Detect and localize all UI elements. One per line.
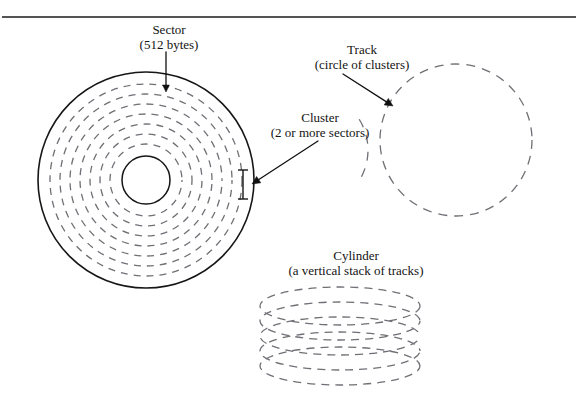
track-label-line2: (circle of clusters) — [292, 57, 432, 72]
track-circle — [380, 64, 532, 216]
sector-label-line1: Sector — [104, 22, 234, 37]
cylinder-track-ellipse — [260, 347, 420, 385]
cylinder-track-ellipse — [260, 302, 420, 340]
cluster-label-line2: (2 or more sectors) — [244, 125, 396, 140]
cluster-label-line1: Cluster — [244, 110, 396, 125]
cylinder-track-ellipse — [260, 317, 420, 355]
track-label: Track (circle of clusters) — [292, 42, 432, 73]
track-arrow-shaft — [343, 74, 387, 102]
platter-hub-circle — [122, 156, 170, 204]
platter-track-rings — [50, 84, 242, 276]
cluster-extent-marker — [238, 170, 248, 199]
sector-arrow-head — [163, 85, 170, 92]
platter-track-ring — [100, 134, 192, 226]
track-label-line1: Track — [292, 42, 432, 57]
cylinder-track-ellipse — [260, 287, 420, 325]
cylinder-label-line2: (a vertical stack of tracks) — [256, 263, 456, 278]
sector-label: Sector (512 bytes) — [104, 22, 234, 53]
cylinder-track-ellipse — [260, 332, 420, 370]
sector-label-line2: (512 bytes) — [104, 37, 234, 52]
cylinder-stack — [260, 287, 420, 385]
disk-platter — [38, 72, 254, 288]
platter-track-ring — [110, 144, 182, 216]
platter-track-ring — [70, 104, 222, 256]
cluster-arrow-shaft — [258, 141, 318, 180]
platter-track-ring — [90, 124, 202, 236]
cluster-label: Cluster (2 or more sectors) — [244, 110, 396, 141]
platter-track-ring — [50, 84, 242, 276]
platter-track-ring — [60, 94, 232, 266]
disk-geometry-figure: Sector (512 bytes) Cluster (2 or more se… — [0, 0, 578, 408]
cylinder-label-line1: Cylinder — [256, 248, 456, 263]
cylinder-label: Cylinder (a vertical stack of tracks) — [256, 248, 456, 279]
diagram-canvas — [0, 0, 578, 408]
